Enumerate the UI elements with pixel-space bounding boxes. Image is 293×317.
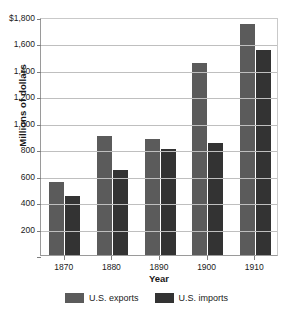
legend-label: U.S. exports — [89, 293, 139, 303]
y-axis-tick-mark — [37, 72, 41, 73]
bar-exports-1910 — [240, 24, 255, 255]
x-axis-tick-label: 1890 — [150, 262, 169, 272]
x-axis-tick-mark — [64, 256, 65, 260]
bar-chart: Millions of dollars 2004006008001,0001,2… — [0, 0, 293, 317]
bar-exports-1870 — [49, 182, 64, 255]
x-axis-tick-label: 1900 — [197, 262, 216, 272]
y-axis-tick-mark — [37, 125, 41, 126]
y-axis-tick-label: 400 — [21, 198, 35, 208]
bar-group — [192, 19, 223, 255]
bar-exports-1900 — [192, 63, 207, 255]
bar-imports-1910 — [256, 50, 271, 255]
y-axis-tick-label: 1,600 — [14, 39, 35, 49]
imports-swatch — [155, 293, 174, 303]
bar-imports-1890 — [161, 149, 176, 255]
x-axis-tick-mark — [111, 256, 112, 260]
bar-group — [49, 19, 80, 255]
bar-group — [97, 19, 128, 255]
bar-group — [240, 19, 271, 255]
bar-imports-1880 — [113, 170, 128, 255]
x-axis-tick-label: 1870 — [54, 262, 73, 272]
x-axis-tick-labels: 18701880189019001910 — [40, 256, 278, 274]
y-axis-tick-label: 1,000 — [14, 119, 35, 129]
y-axis-tick-mark — [37, 45, 41, 46]
y-axis-tick-mark — [37, 231, 41, 232]
legend-item-imports: U.S. imports — [155, 293, 229, 303]
y-axis-tick-label: 800 — [21, 145, 35, 155]
legend-label: U.S. imports — [179, 293, 229, 303]
y-axis-tick-label: 1,200 — [14, 92, 35, 102]
y-axis-tick-mark — [37, 151, 41, 152]
y-axis-tick-mark — [37, 19, 41, 20]
gridline — [41, 231, 277, 232]
bar-exports-1880 — [97, 136, 112, 255]
x-axis-tick-mark — [207, 256, 208, 260]
bar-imports-1900 — [208, 143, 223, 255]
bar-exports-1890 — [145, 139, 160, 255]
x-axis-tick-mark — [159, 256, 160, 260]
gridline — [41, 151, 277, 152]
exports-swatch — [65, 293, 84, 303]
y-axis-tick-mark — [37, 178, 41, 179]
x-axis-tick-mark — [254, 256, 255, 260]
legend-item-exports: U.S. exports — [65, 293, 139, 303]
gridline — [41, 45, 277, 46]
chart-legend: U.S. exportsU.S. imports — [0, 293, 293, 303]
gridline — [41, 72, 277, 73]
plot-area — [40, 18, 278, 256]
y-axis-tick-label: 200 — [21, 225, 35, 235]
y-axis-tick-label: 600 — [21, 172, 35, 182]
x-axis-title: Year — [40, 273, 278, 284]
bar-series-container — [41, 19, 277, 255]
y-axis-tick-label: 1,400 — [14, 66, 35, 76]
x-axis-tick-label: 1910 — [245, 262, 264, 272]
y-axis-tick-labels: 2004006008001,0001,2001,4001,600$1,800 — [0, 18, 38, 256]
gridline — [41, 204, 277, 205]
gridline — [41, 98, 277, 99]
y-axis-tick-mark — [37, 204, 41, 205]
x-axis-tick-label: 1880 — [102, 262, 121, 272]
gridline — [41, 178, 277, 179]
bar-group — [145, 19, 176, 255]
y-axis-tick-label: $1,800 — [9, 13, 35, 23]
gridline — [41, 125, 277, 126]
y-axis-tick-mark — [37, 98, 41, 99]
